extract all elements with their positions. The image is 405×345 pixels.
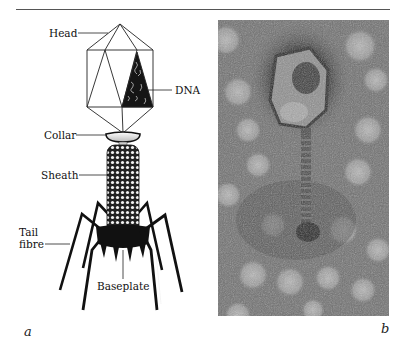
collar [106,132,140,146]
label-tail-fibre-2: fibre [19,238,44,250]
label-tail-fibre-1: Tail [19,226,38,238]
panel-letter-a: a [24,324,32,339]
label-sheath: Sheath [41,169,78,181]
head [87,24,153,133]
micrograph-image [218,20,389,316]
electron-micrograph [218,20,389,316]
phage-diagram [0,0,218,345]
label-head: Head [49,27,77,39]
label-baseplate: Baseplate [97,280,149,292]
label-dna: DNA [175,84,200,96]
label-collar: Collar [44,129,76,141]
panel-letter-b: b [381,321,389,336]
